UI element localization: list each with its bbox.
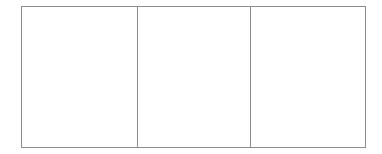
panel-middle <box>137 7 250 147</box>
three-panel-grid <box>21 6 366 148</box>
panel-left <box>22 7 137 147</box>
panel-right <box>250 7 365 147</box>
